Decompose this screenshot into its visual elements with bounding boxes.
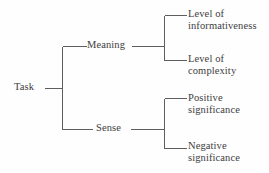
leaf-line-2: informativeness (188, 20, 269, 32)
leaf-line-2: significance (188, 152, 269, 164)
leaf-line-1: Level of (188, 8, 269, 20)
leaf-node-negative-significance: Negative significance (188, 140, 269, 163)
leaf-line-2: significance (188, 104, 269, 116)
node-label-task: Task (14, 81, 34, 93)
node-label-meaning: Meaning (87, 39, 125, 51)
leaf-line-1: Negative (188, 140, 269, 152)
leaf-node-positive-significance: Positive significance (188, 92, 269, 115)
leaf-line-1: Level of (188, 53, 269, 65)
leaf-line-1: Positive (188, 92, 269, 104)
leaf-node-level-of-complexity: Level of complexity (188, 53, 269, 76)
leaf-line-2: complexity (188, 65, 269, 77)
node-label-sense: Sense (96, 122, 121, 134)
leaf-node-level-of-informativeness: Level of informativeness (188, 8, 269, 31)
diagram-canvas: Task Meaning Sense Level of informativen… (0, 0, 269, 173)
